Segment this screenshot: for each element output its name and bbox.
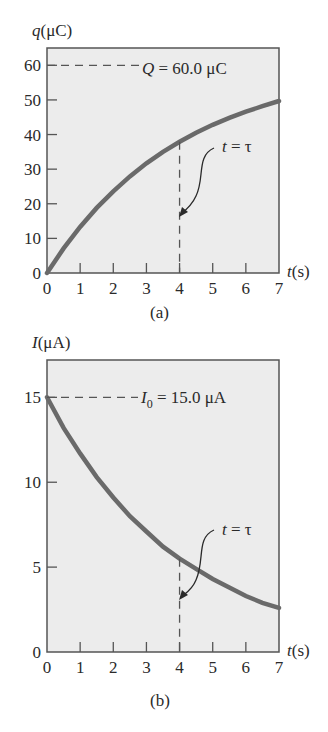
svg-text:0: 0 <box>43 279 52 298</box>
y-axis-label-b: I(μA) <box>31 333 70 352</box>
svg-text:10: 10 <box>24 229 41 248</box>
tau-label-a: t = τ <box>222 137 252 156</box>
svg-text:0: 0 <box>33 643 42 662</box>
svg-text:1: 1 <box>76 658 85 677</box>
panel-a-charge-vs-time: 012345670102030405060 q(μC) Q = 60.0 μC … <box>24 21 310 322</box>
panel-b-current-vs-time: 01234567051015 I(μA) I0 = 15.0 μA t = τ … <box>24 333 310 710</box>
svg-text:5: 5 <box>208 658 217 677</box>
svg-text:7: 7 <box>275 658 284 677</box>
x-axis-label-a: t(s) <box>287 262 310 281</box>
svg-text:3: 3 <box>142 658 151 677</box>
svg-text:10: 10 <box>24 473 41 492</box>
plot-area-a <box>47 48 279 273</box>
svg-text:15: 15 <box>24 388 41 407</box>
svg-text:60: 60 <box>24 56 41 75</box>
svg-text:1: 1 <box>76 279 85 298</box>
svg-text:6: 6 <box>242 658 251 677</box>
svg-text:4: 4 <box>175 279 184 298</box>
svg-text:7: 7 <box>275 279 284 298</box>
charge-current-charts: 012345670102030405060 q(μC) Q = 60.0 μC … <box>0 0 328 732</box>
svg-text:5: 5 <box>208 279 217 298</box>
x-axis-label-b: t(s) <box>287 641 310 660</box>
svg-text:40: 40 <box>24 126 41 145</box>
tau-label-b: t = τ <box>222 520 252 539</box>
svg-text:20: 20 <box>24 195 41 214</box>
svg-text:6: 6 <box>242 279 251 298</box>
svg-text:2: 2 <box>109 658 118 677</box>
panel-label-a: (a) <box>150 303 169 322</box>
svg-text:0: 0 <box>43 658 52 677</box>
svg-text:0: 0 <box>33 264 42 283</box>
svg-text:4: 4 <box>175 658 184 677</box>
panel-label-b: (b) <box>150 691 170 710</box>
q-max-annotation: Q = 60.0 μC <box>142 59 227 78</box>
svg-text:30: 30 <box>24 160 41 179</box>
svg-text:5: 5 <box>33 558 42 577</box>
svg-text:2: 2 <box>109 279 118 298</box>
svg-text:3: 3 <box>142 279 151 298</box>
y-axis-label-a: q(μC) <box>32 21 72 40</box>
svg-text:50: 50 <box>24 91 41 110</box>
